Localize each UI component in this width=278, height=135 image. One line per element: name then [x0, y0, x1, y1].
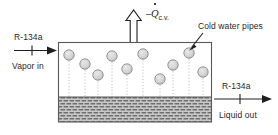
diagram-canvas: R-134a Vapor in R-134a Liquid out Cold w…	[0, 0, 278, 135]
pipe-circle	[80, 59, 90, 69]
q-subscript: c.v.	[159, 14, 169, 21]
cold-water-pipes-label: Cold water pipes	[198, 22, 263, 31]
heat-transfer-label: –Qc.v.	[146, 8, 169, 21]
outlet-flow-arrow	[214, 94, 272, 104]
liquid-pool	[59, 97, 212, 122]
pipe-circle	[184, 48, 194, 58]
outlet-state-label: Liquid out	[219, 111, 257, 120]
pipe-circle	[168, 60, 178, 70]
outlet-fluid-label: R-134a	[222, 82, 250, 91]
rate-dot-icon	[154, 3, 156, 5]
pipe-circle	[107, 51, 117, 61]
inlet-fluid-label: R-134a	[14, 33, 42, 42]
inlet-state-label: Vapor in	[12, 62, 44, 71]
heat-transfer-arrow	[126, 10, 141, 42]
pipe-circle	[138, 49, 148, 59]
pipe-circle	[64, 50, 74, 60]
pipe-circle	[93, 70, 103, 80]
pipe-circle	[155, 74, 165, 84]
pipe-circle	[198, 67, 208, 77]
inlet-flow-arrow	[14, 46, 57, 56]
pipe-circle	[122, 64, 132, 74]
q-symbol: Q	[151, 8, 159, 19]
